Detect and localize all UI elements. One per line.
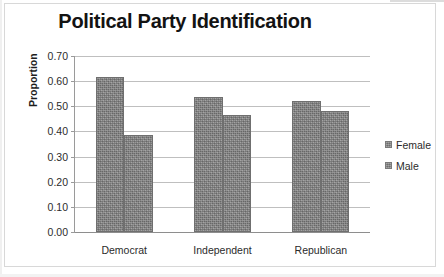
chart-legend: Female Male [385, 139, 441, 181]
y-axis-tick-label: 0.30 [48, 151, 68, 163]
y-axis-tick [71, 131, 75, 132]
plot-area: 0.700.600.500.400.300.200.100.00 Democra… [75, 56, 370, 232]
bar-republican-female [292, 101, 321, 232]
y-axis-tick-label: 0.10 [48, 201, 68, 213]
legend-swatch-female-icon [385, 141, 392, 148]
x-axis-baseline [75, 232, 370, 233]
y-axis-title: Proportion [27, 53, 39, 107]
y-axis-tick [71, 157, 75, 158]
scan-artifact-top [390, 0, 444, 2]
gridline [75, 56, 370, 57]
y-axis-tick [71, 106, 75, 107]
y-axis-tick [71, 182, 75, 183]
x-axis-label-independent: Independent [193, 244, 251, 256]
legend-label-female: Female [396, 139, 431, 151]
y-axis-tick-label: 0.60 [48, 75, 68, 87]
y-axis-tick [71, 81, 75, 82]
y-axis-tick-label: 0.20 [48, 176, 68, 188]
y-axis-tick [71, 232, 75, 233]
y-axis-tick [71, 56, 75, 57]
bar-independent-female [194, 97, 223, 232]
chart-frame: Political Party Identification Proportio… [4, 3, 436, 267]
bar-independent-male [223, 115, 252, 232]
y-axis-tick [71, 207, 75, 208]
legend-swatch-male-icon [385, 162, 392, 169]
y-axis-tick-label: 0.00 [48, 226, 68, 238]
x-axis-label-republican: Republican [295, 244, 348, 256]
legend-item-male: Male [385, 160, 441, 171]
x-axis-label-democrat: Democrat [101, 244, 147, 256]
y-axis-tick-label: 0.70 [48, 50, 68, 62]
bar-democrat-female [96, 77, 125, 232]
scan-artifact-left [0, 0, 2, 277]
chart-title: Political Party Identification [5, 10, 365, 33]
legend-label-male: Male [396, 160, 419, 172]
bar-republican-male [321, 111, 350, 232]
y-axis-tick-label: 0.50 [48, 100, 68, 112]
y-axis-tick-label: 0.40 [48, 125, 68, 137]
legend-item-female: Female [385, 139, 441, 150]
bar-democrat-male [124, 135, 153, 232]
